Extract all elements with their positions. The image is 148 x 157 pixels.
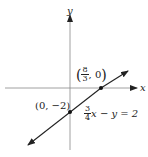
line-equation-label: 34x − y = 2: [84, 105, 138, 122]
coordinate-plane: [0, 0, 148, 157]
y-axis-label: y: [67, 6, 73, 16]
x-intercept-label: (83, 0): [76, 66, 107, 83]
x-axis-label: x: [140, 83, 146, 93]
y-intercept-label: (0, −2): [35, 101, 70, 111]
x-intercept-point: [99, 86, 103, 90]
x-intercept-fraction: 83: [81, 66, 88, 83]
